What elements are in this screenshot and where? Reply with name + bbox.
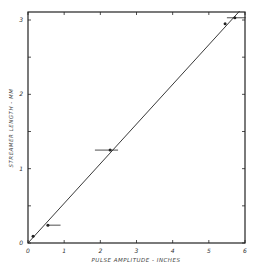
data-points: [32, 16, 246, 238]
data-point: [32, 235, 35, 238]
x-tick-label: 3: [135, 247, 139, 254]
x-tick-label: 2: [98, 247, 102, 254]
data-point: [109, 149, 112, 152]
y-axis-label: STREAMER LENGTH - MM: [8, 88, 14, 167]
x-tick-label: 5: [207, 247, 211, 254]
data-point: [46, 224, 49, 227]
y-tick-label: 2: [19, 90, 23, 97]
y-axis: 0123: [19, 16, 245, 246]
data-point: [224, 22, 227, 25]
x-tick-label: 1: [62, 247, 66, 254]
plot-frame: [28, 12, 245, 243]
x-tick-label: 6: [243, 247, 247, 254]
data-point: [233, 16, 236, 19]
y-tick-label: 1: [19, 165, 23, 172]
x-tick-label: 0: [26, 247, 30, 254]
x-axis-label: PULSE AMPLITUDE - INCHES: [92, 257, 181, 263]
chart: 0123456 0123 PULSE AMPLITUDE - INCHES ST…: [0, 0, 255, 266]
x-tick-label: 4: [171, 247, 175, 254]
y-tick-label: 0: [19, 239, 23, 246]
x-axis: 0123456: [26, 12, 247, 254]
y-tick-label: 3: [19, 16, 23, 23]
fit-line: [28, 11, 240, 243]
